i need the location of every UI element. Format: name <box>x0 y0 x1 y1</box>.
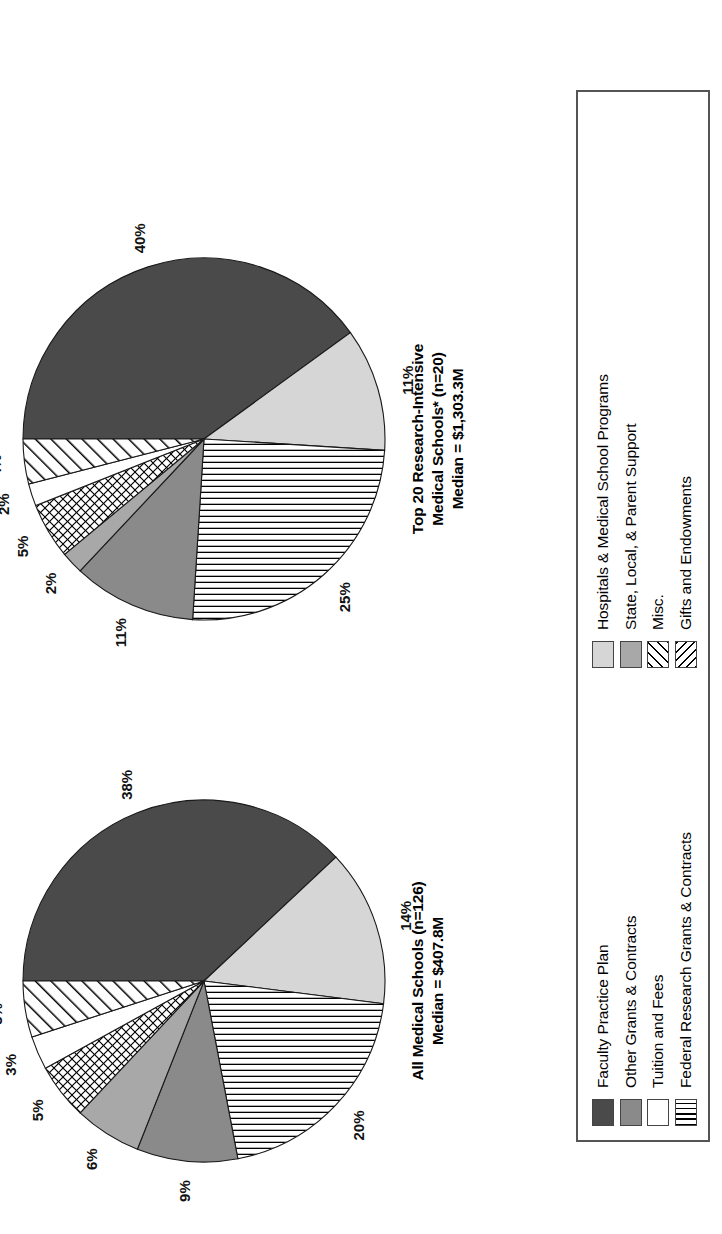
pie-chart-all-medical-schools[interactable]: 38%14%20%9%6%5%3%5% <box>18 795 390 1167</box>
legend-item-fpp[interactable]: Faculty Practice Plan <box>592 696 614 1126</box>
legend-swatch-misc-icon <box>647 641 669 668</box>
legend-label-state: State, Local, & Parent Support <box>622 424 640 630</box>
pie-panel-top-20-research-intensive: 40%11%25%11%2%5%2%4% Top 20 Research-Int… <box>0 204 560 674</box>
pie-panel-all-medical-schools: 38%14%20%9%6%5%3%5% All Medical Schools … <box>0 746 560 1216</box>
pie-title-all-medical-schools: All Medical Schools (n=126) Median = $40… <box>408 746 448 1216</box>
pie-label-state: 6% <box>83 1148 98 1170</box>
pie-title-line-3: Median = $1,303.3M <box>448 204 468 674</box>
legend-swatch-fpp-icon <box>592 1099 614 1126</box>
legend-item-misc[interactable]: Misc. <box>647 198 669 668</box>
legend-label-tuition: Tuition and Fees <box>649 975 667 1088</box>
legend-item-gifts[interactable]: Gifts and Endowments <box>675 198 697 668</box>
pie-label-tuition: 3% <box>3 1054 18 1076</box>
pie-label-misc: 4% <box>0 455 2 477</box>
legend-swatch-gifts-icon <box>675 641 697 668</box>
legend-grid: Faculty Practice PlanHospitals & Medical… <box>589 102 700 1126</box>
legend-item-fed[interactable]: Federal Research Grants & Contracts <box>675 696 697 1126</box>
pie-label-state: 2% <box>43 573 58 595</box>
legend-swatch-fed-icon <box>675 1099 697 1126</box>
legend-swatch-state-icon <box>620 641 642 668</box>
pie-slice-fed[interactable] <box>193 439 385 620</box>
pie-title-line-2: Medical Schools* (n=20) <box>428 204 448 674</box>
pie-label-other: 11% <box>113 618 128 647</box>
legend-label-misc: Misc. <box>649 594 667 630</box>
pie-title-line-1: Top 20 Research-Intensive <box>408 204 428 674</box>
legend-item-other[interactable]: Other Grants & Contracts <box>620 696 642 1126</box>
pie-slices <box>23 800 385 1162</box>
legend-label-fed: Federal Research Grants & Contracts <box>677 832 695 1088</box>
pie-label-gifts: 5% <box>15 536 30 558</box>
pie-svg-top-20-research-intensive <box>18 253 390 625</box>
legend-label-fpp: Faculty Practice Plan <box>594 945 612 1089</box>
legend-item-hosp[interactable]: Hospitals & Medical School Programs <box>592 198 614 668</box>
legend-swatch-tuition-icon <box>647 1099 669 1126</box>
pie-label-fpp: 40% <box>131 223 146 253</box>
pie-label-tuition: 2% <box>0 493 11 515</box>
legend-item-state[interactable]: State, Local, & Parent Support <box>620 198 642 668</box>
pie-chart-top-20-research-intensive[interactable]: 40%11%25%11%2%5%2%4% <box>18 253 390 625</box>
legend-swatch-other-icon <box>620 1099 642 1126</box>
pie-title-line-1: All Medical Schools (n=126) <box>408 746 428 1216</box>
pie-label-gifts: 5% <box>30 1099 45 1121</box>
pie-slices <box>23 258 385 620</box>
chart-legend: Faculty Practice PlanHospitals & Medical… <box>576 90 710 1142</box>
pie-label-misc: 5% <box>0 1003 3 1025</box>
pie-title-top-20-research-intensive: Top 20 Research-Intensive Medical School… <box>408 204 467 674</box>
legend-label-other: Other Grants & Contracts <box>622 916 640 1088</box>
pie-label-fed: 25% <box>336 582 351 612</box>
figure-canvas: 38%14%20%9%6%5%3%5% All Medical Schools … <box>0 0 722 1234</box>
pie-svg-all-medical-schools <box>18 795 390 1167</box>
pie-label-fed: 20% <box>350 1110 365 1140</box>
legend-swatch-hosp-icon <box>592 641 614 668</box>
figure-stage: 38%14%20%9%6%5%3%5% All Medical Schools … <box>0 0 722 1234</box>
legend-item-tuition[interactable]: Tuition and Fees <box>647 696 669 1126</box>
pie-title-line-2: Median = $407.8M <box>428 746 448 1216</box>
pie-label-other: 9% <box>177 1180 192 1202</box>
legend-label-hosp: Hospitals & Medical School Programs <box>594 374 612 630</box>
legend-label-gifts: Gifts and Endowments <box>677 476 695 630</box>
pie-label-fpp: 38% <box>119 770 134 800</box>
